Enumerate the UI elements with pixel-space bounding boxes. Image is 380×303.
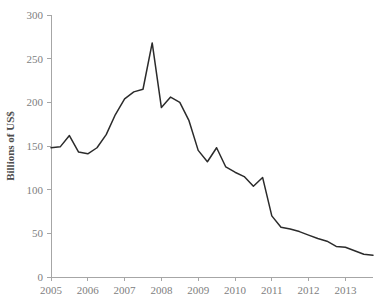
y-axis-group: 050100150200250300 (27, 9, 52, 283)
x-axis-group: 200520062007200820092010201120122013 (40, 277, 373, 296)
series-group (51, 43, 373, 255)
y-tick-label: 100 (27, 184, 44, 196)
x-axis-ticks: 200520062007200820092010201120122013 (40, 277, 357, 296)
x-tick-label: 2008 (150, 284, 173, 296)
x-tick-label: 2013 (334, 284, 357, 296)
y-tick-label: 300 (27, 9, 44, 21)
x-tick-label: 2006 (77, 284, 100, 296)
data-series-line (51, 43, 373, 255)
x-tick-label: 2010 (224, 284, 247, 296)
chart-container: 050100150200250300 200520062007200820092… (0, 0, 380, 303)
line-chart-plot: 050100150200250300 200520062007200820092… (0, 0, 380, 303)
y-tick-label: 50 (32, 227, 44, 239)
y-tick-label: 250 (27, 53, 44, 65)
y-tick-label: 0 (38, 271, 44, 283)
y-tick-label: 200 (27, 96, 44, 108)
y-axis-ticks: 050100150200250300 (27, 9, 52, 283)
x-tick-label: 2012 (298, 284, 320, 296)
x-tick-label: 2005 (40, 284, 63, 296)
x-tick-label: 2009 (187, 284, 210, 296)
x-tick-label: 2007 (114, 284, 137, 296)
y-axis-title: Billions of US$ (4, 111, 16, 181)
y-tick-label: 150 (27, 140, 44, 152)
x-tick-label: 2011 (261, 284, 283, 296)
